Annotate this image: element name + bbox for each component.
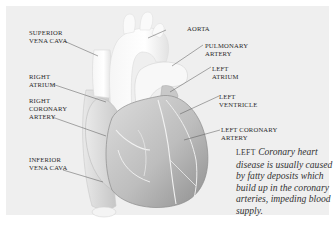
caption: LEFT Coronary heart disease is usually c…: [236, 146, 335, 217]
label-inferior-vena-cava: INFERIOR VENA CAVA: [29, 156, 67, 172]
label-right-coronary-artery: RIGHT CORONARY ARTERY: [29, 97, 67, 121]
label-left-coronary-artery: LEFT CORONARY ARTERY: [221, 126, 278, 142]
label-right-atrium: RIGHT ATRIUM: [29, 73, 55, 89]
label-left-atrium: LEFT ATRIUM: [212, 65, 238, 81]
label-pulmonary-artery: PULMONARY ARTERY: [205, 42, 248, 58]
label-left-ventricle: LEFT VENTRICLE: [219, 93, 257, 109]
label-superior-vena-cava: SUPERIOR VENA CAVA: [29, 29, 67, 45]
caption-lead: LEFT: [236, 148, 256, 157]
label-aorta: AORTA: [187, 25, 210, 33]
